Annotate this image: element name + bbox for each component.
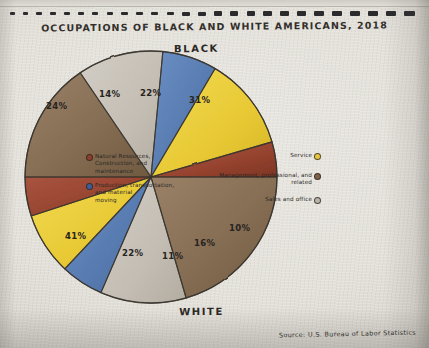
slice-label-white-production: 11% <box>162 251 183 261</box>
binding-hole <box>198 12 206 16</box>
legend-item-service[interactable]: Service <box>250 152 321 159</box>
binding-hole <box>247 11 256 15</box>
legend-dot-sales-office <box>314 197 321 204</box>
binding-hole <box>386 11 396 16</box>
binding-hole <box>78 12 84 15</box>
binding-hole <box>182 12 190 16</box>
legend-item-natural-resources[interactable]: Natural Resources,Construction, andmaint… <box>86 153 167 175</box>
legend-label-natural-resources: Natural Resources,Construction, andmaint… <box>95 153 150 174</box>
slice-label-white-natural: 10% <box>229 223 250 233</box>
slice-label-white-management: 41% <box>65 231 86 241</box>
binding-hole <box>280 11 289 15</box>
legend-item-sales-office[interactable]: Sales and office <box>235 196 321 203</box>
binding-hole <box>263 11 272 15</box>
binding-hole <box>404 11 415 16</box>
binding-hole <box>121 12 128 16</box>
legend-label-service: Service <box>290 152 312 158</box>
legend-dot-natural-resources <box>86 154 93 161</box>
slice-label-black-service: 24% <box>46 101 67 111</box>
binding-hole <box>151 12 158 16</box>
binding-hole <box>10 12 15 15</box>
notebook-page-photo: OCCUPATIONS OF BLACK AND WHITE AMERICANS… <box>0 0 429 348</box>
legend-dot-management <box>314 173 321 180</box>
slice-label-black-production: 14% <box>99 89 120 99</box>
legend-dot-production <box>86 183 93 190</box>
binding-hole <box>50 12 56 15</box>
legend-item-management[interactable]: Management, professional, andrelated <box>218 172 321 187</box>
binding-hole <box>136 12 143 16</box>
slice-label-black-sales: 22% <box>140 88 161 98</box>
spiral-binding-holes <box>10 9 415 18</box>
legend-label-sales-office: Sales and office <box>265 196 312 202</box>
binding-hole <box>368 11 378 16</box>
binding-hole <box>314 11 323 16</box>
binding-hole <box>36 12 41 15</box>
binding-hole <box>92 12 98 16</box>
legend-item-production[interactable]: Production, transportation,and materialm… <box>86 182 181 204</box>
binding-hole <box>230 11 238 15</box>
legend-dot-service <box>314 153 321 160</box>
slice-label-white-sales: 22% <box>122 248 143 258</box>
binding-hole <box>107 12 114 16</box>
legend-label-management: Management, professional, andrelated <box>219 172 312 185</box>
binding-hole <box>64 12 70 15</box>
binding-hole <box>23 12 28 15</box>
page-top-edge-line <box>0 6 429 7</box>
binding-hole <box>332 11 342 16</box>
slice-label-white-service: 16% <box>194 238 215 248</box>
legend-label-production-text: Production, transportation,and materialm… <box>95 182 174 203</box>
binding-hole <box>297 11 306 16</box>
slice-label-black-management: 31% <box>189 95 210 105</box>
binding-hole <box>350 11 360 16</box>
binding-hole <box>167 12 174 16</box>
binding-hole <box>214 11 222 15</box>
